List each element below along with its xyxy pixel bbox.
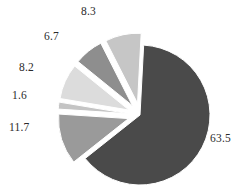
pie-chart-canvas — [0, 0, 250, 195]
pie-chart: 63.511.71.68.26.78.3 — [0, 0, 250, 195]
pie-slice-label-1.6: 1.6 — [12, 90, 27, 102]
pie-slice-label-6.7: 6.7 — [44, 31, 59, 43]
pie-slice-label-63.5: 63.5 — [210, 133, 231, 145]
pie-slice-label-11.7: 11.7 — [9, 122, 30, 134]
pie-slice-label-8.2: 8.2 — [19, 62, 34, 74]
pie-slice-label-8.3: 8.3 — [81, 6, 96, 18]
